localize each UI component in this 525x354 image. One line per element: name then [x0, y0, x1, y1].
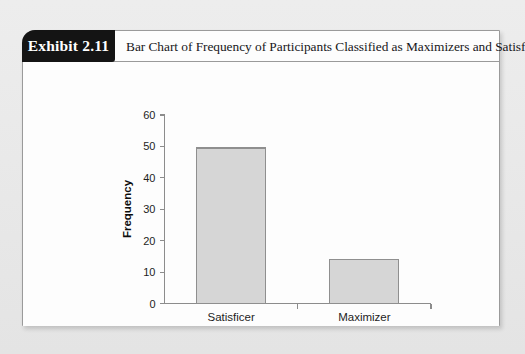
chart-area: 0102030405060 SatisficerMaximizer Freque… [23, 62, 499, 326]
y-tick-label: 0 [149, 298, 155, 310]
bar-series [197, 148, 399, 304]
y-tick-label: 30 [143, 203, 155, 215]
x-tick-label: Maximizer [338, 311, 391, 323]
exhibit-title: Bar Chart of Frequency of Participants C… [126, 31, 491, 62]
exhibit-number-badge: Exhibit 2.11 [22, 30, 115, 62]
y-tick-label: 20 [143, 235, 155, 247]
bar-satisficer [197, 148, 266, 304]
x-tick-label: Satisficer [207, 311, 254, 323]
y-axis-tick-labels: 0102030405060 [143, 109, 155, 310]
bar-maximizer [330, 260, 399, 304]
exhibit-header: Exhibit 2.11 Bar Chart of Frequency of P… [23, 31, 499, 62]
x-axis-tick-labels: SatisficerMaximizer [207, 311, 390, 323]
y-tick-label: 10 [143, 266, 155, 278]
exhibit-card: Exhibit 2.11 Bar Chart of Frequency of P… [22, 30, 500, 326]
x-axis-ticks [298, 304, 431, 309]
y-tick-label: 40 [143, 172, 155, 184]
y-tick-label: 50 [143, 140, 155, 152]
y-axis-title: Frequency [121, 179, 133, 238]
y-tick-label: 60 [143, 109, 155, 121]
bar-chart: 0102030405060 SatisficerMaximizer Freque… [23, 62, 501, 326]
y-axis-ticks [160, 115, 165, 304]
